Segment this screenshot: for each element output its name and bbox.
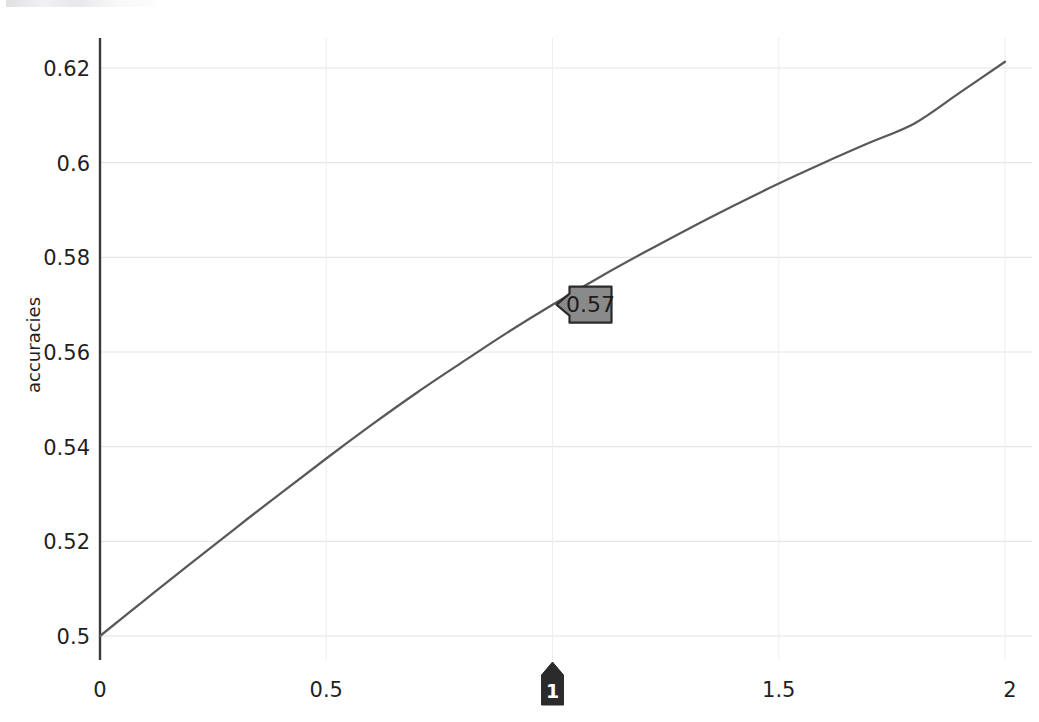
x-tick-label: 1.5 [762, 678, 795, 702]
y-tick-label: 0.58 [43, 246, 90, 270]
y-tick-label: 0.5 [57, 625, 90, 649]
y-tick-label: 0.52 [43, 530, 90, 554]
vertical-gridlines [326, 38, 1005, 660]
tooltip-value: 0.57 [566, 292, 615, 317]
y-axis-title: accuracies [23, 297, 44, 393]
x-tick-label: 0.5 [310, 678, 343, 702]
line-chart: 0.50.520.540.560.580.60.62 00.51.52 accu… [0, 0, 1039, 722]
x-tick-label: 2 [1003, 678, 1016, 702]
y-tick-label: 0.62 [43, 57, 90, 81]
marker-label: 1 [546, 680, 559, 702]
horizontal-gridlines [100, 68, 1032, 636]
y-tick-label: 0.54 [43, 436, 90, 460]
y-tick-labels: 0.50.520.540.560.580.60.62 [43, 57, 90, 649]
y-tick-label: 0.6 [57, 152, 90, 176]
x-tick-label: 0 [93, 678, 106, 702]
y-tick-label: 0.56 [43, 341, 90, 365]
chart-container: 0.50.520.540.560.580.60.62 00.51.52 accu… [0, 0, 1039, 722]
x-axis-marker[interactable]: 1 [542, 662, 564, 705]
value-tooltip[interactable]: 0.57 [557, 287, 615, 323]
